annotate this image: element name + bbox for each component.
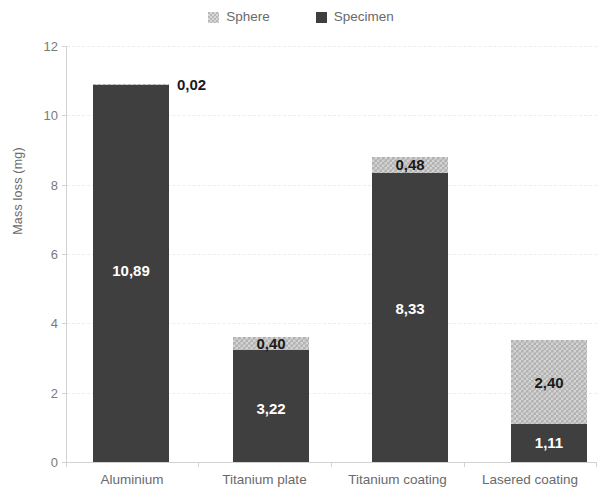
y-tick-label-0: 0 <box>24 455 58 470</box>
bar-group-titanium-plate[interactable]: 0,40 3,22 <box>233 337 309 462</box>
chart-legend: Sphere Specimen <box>0 6 602 28</box>
plot-area: 0,02 10,89 0,40 3,22 0,48 8,33 <box>66 46 597 463</box>
y-tick-label-12: 12 <box>24 39 58 54</box>
x-tick-mark-3 <box>464 462 465 467</box>
x-tick-label-titanium-coating: Titanium coating <box>331 472 464 487</box>
y-tick-label-8: 8 <box>24 177 58 192</box>
legend-item-specimen[interactable]: Specimen <box>316 10 394 24</box>
y-tick-mark-8 <box>62 185 67 186</box>
bar-segment-specimen-titanium-plate[interactable]: 3,22 <box>233 350 309 462</box>
y-tick-label-10: 10 <box>24 108 58 123</box>
bar-label-sphere-titanium-coating: 0,48 <box>395 157 424 172</box>
bar-chart: Sphere Specimen Mass loss (mg) 12 10 8 6… <box>0 0 602 497</box>
bar-label-sphere-lasered-coating: 2,40 <box>511 375 587 390</box>
legend-item-sphere[interactable]: Sphere <box>208 10 270 24</box>
bar-group-titanium-coating[interactable]: 0,48 8,33 <box>372 157 448 462</box>
legend-label-specimen: Specimen <box>334 10 394 24</box>
y-tick-label-4: 4 <box>24 316 58 331</box>
x-tick-label-aluminium: Aluminium <box>66 472 198 487</box>
bar-label-specimen-titanium-coating: 8,33 <box>372 301 448 316</box>
y-tick-mark-2 <box>62 393 67 394</box>
x-tick-mark-4 <box>596 462 597 467</box>
bar-label-specimen-aluminium: 10,89 <box>93 263 169 278</box>
bar-segment-sphere-titanium-coating[interactable]: 0,48 <box>372 157 448 174</box>
x-tick-mark-2 <box>331 462 332 467</box>
y-tick-mark-4 <box>62 323 67 324</box>
bar-segment-specimen-lasered-coating[interactable]: 1,11 <box>511 424 587 463</box>
bar-group-aluminium[interactable]: 0,02 10,89 <box>93 84 169 463</box>
y-tick-mark-12 <box>62 46 67 47</box>
x-tick-mark-1 <box>198 462 199 467</box>
y-axis-title: Mass loss (mg) <box>11 121 25 261</box>
bar-segment-specimen-titanium-coating[interactable]: 8,33 <box>372 173 448 462</box>
filled-square-swatch-icon <box>316 12 327 23</box>
bar-label-specimen-titanium-plate: 3,22 <box>233 401 309 416</box>
x-tick-label-titanium-plate: Titanium plate <box>198 472 331 487</box>
checker-square-swatch-icon <box>208 12 219 23</box>
y-tick-label-6: 6 <box>24 247 58 262</box>
gridline-12 <box>67 46 597 47</box>
y-tick-mark-6 <box>62 254 67 255</box>
bar-label-sphere-aluminium: 0,02 <box>177 76 206 93</box>
x-tick-mark-0 <box>66 462 67 467</box>
bar-label-specimen-lasered-coating: 1,11 <box>535 435 563 450</box>
y-tick-mark-10 <box>62 115 67 116</box>
bar-segment-sphere-titanium-plate[interactable]: 0,40 <box>233 337 309 351</box>
bar-segment-sphere-lasered-coating[interactable]: 2,40 <box>511 340 587 423</box>
bar-group-lasered-coating[interactable]: 2,40 1,11 <box>511 340 587 462</box>
x-tick-label-lasered-coating: Lasered coating <box>464 472 596 487</box>
legend-label-sphere: Sphere <box>226 10 270 24</box>
bar-label-sphere-titanium-plate: 0,40 <box>256 336 285 351</box>
y-tick-label-2: 2 <box>24 385 58 400</box>
bar-segment-specimen-aluminium[interactable]: 10,89 <box>93 85 169 463</box>
